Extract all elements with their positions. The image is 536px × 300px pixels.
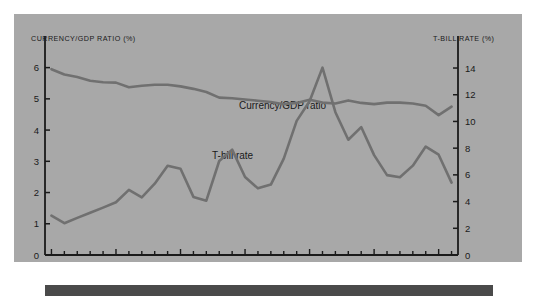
x-axis-tick-label: 1970 [170, 260, 191, 262]
left-axis-tick-label: 2 [34, 187, 39, 198]
x-axis-tick-label: 1990 [428, 260, 449, 262]
right-axis-tick-label: 0 [465, 250, 470, 261]
x-axis-tick-label: 1980 [299, 260, 320, 262]
left-axis-tick-label: 6 [34, 62, 39, 73]
right-axis-tick-label: 4 [465, 196, 470, 207]
x-axis-tick-label: 1975 [234, 260, 255, 262]
x-axis-tick-label: 1960 [41, 260, 62, 262]
caption-bar [45, 285, 493, 296]
right-axis-tick-label: 12 [465, 89, 476, 100]
left-axis-tick-label: 5 [34, 93, 39, 104]
x-axis-tick-label: 1985 [364, 260, 385, 262]
left-axis-tick-label: 4 [34, 125, 39, 136]
left-axis-tick-label: 1 [34, 218, 39, 229]
series-line-tbill-rate [51, 68, 451, 224]
chart-panel: CURRENCY/GDP RATIO (%) T-BILL RATE (%) C… [14, 14, 522, 262]
series-line-currency-gdp-ratio [51, 69, 451, 115]
right-axis-tick-label: 6 [465, 169, 470, 180]
right-axis-tick-label: 8 [465, 143, 470, 154]
right-axis-tick-label: 2 [465, 223, 470, 234]
axes-group: 0123456024681012141960196519701975198019… [34, 36, 476, 262]
chart-figure: CURRENCY/GDP RATIO (%) T-BILL RATE (%) C… [0, 0, 536, 300]
x-axis-tick-label: 1965 [105, 260, 126, 262]
plot-area: 0123456024681012141960196519701975198019… [14, 14, 522, 262]
data-lines-group [51, 68, 451, 224]
right-axis-tick-label: 14 [465, 63, 476, 74]
right-axis-tick-label: 10 [465, 116, 476, 127]
left-axis-tick-label: 0 [34, 250, 39, 261]
left-axis-tick-label: 3 [34, 156, 39, 167]
